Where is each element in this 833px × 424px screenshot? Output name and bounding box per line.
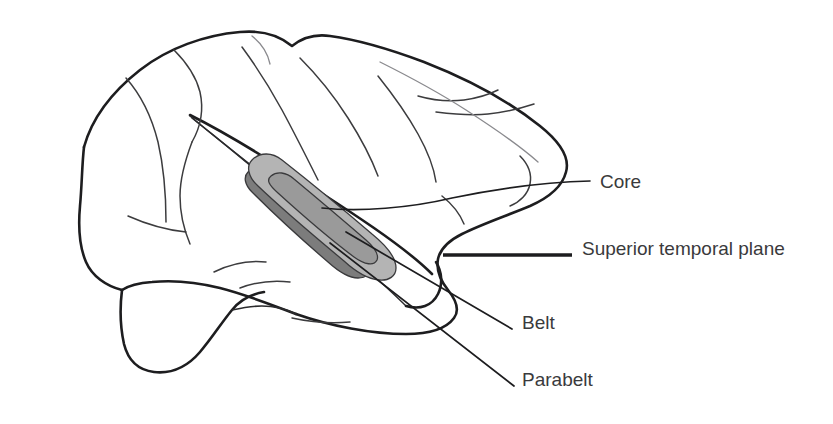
cerebellum-outline	[121, 290, 264, 372]
sulcus-temporal-inferior	[240, 281, 290, 288]
sulcus-inferior-frontal	[126, 78, 166, 222]
cerebrum-outline	[84, 32, 567, 334]
cerebellum-connector	[232, 306, 296, 314]
sulcus-lateral-occipital	[510, 156, 531, 206]
label-core: Core	[600, 171, 641, 192]
label-parabelt: Parabelt	[522, 369, 593, 390]
sulcus-temporal-post-branch	[292, 318, 350, 323]
label-superior-temporal-plane: Superior temporal plane	[582, 238, 785, 259]
sulcus-frontal-faint	[252, 36, 270, 64]
sulcus-temporal-short	[128, 216, 186, 232]
leader-lines-group	[322, 181, 590, 386]
sulcus-temporal-mid	[214, 261, 266, 272]
label-belt: Belt	[522, 312, 555, 333]
sulcus-superior-frontal	[174, 50, 202, 142]
figure-root: Core Superior temporal plane Belt Parabe…	[0, 0, 833, 424]
brain-diagram: Core Superior temporal plane Belt Parabe…	[0, 0, 833, 424]
temporal-lobe-outline	[122, 281, 296, 314]
auditory-regions-group	[245, 154, 396, 280]
labels-group: Core Superior temporal plane Belt Parabe…	[522, 171, 785, 390]
sulcus-postcentral	[300, 58, 378, 176]
leader-belt	[346, 232, 512, 329]
sulcus-intraparietal	[378, 76, 436, 182]
sulci-group	[126, 36, 538, 323]
sulcus-precentral	[180, 142, 192, 244]
frontal-inferior-outline	[79, 147, 122, 290]
